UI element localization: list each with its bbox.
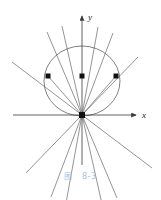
left-point-marker bbox=[46, 74, 51, 79]
chord-left bbox=[48, 76, 82, 115]
figure-caption-number: 8-3 bbox=[82, 172, 97, 181]
figure-caption-label: 图 bbox=[64, 172, 73, 181]
chord-right bbox=[82, 76, 116, 115]
right-point-marker bbox=[114, 74, 119, 79]
y-axis-label: y bbox=[87, 12, 92, 22]
origin-point-marker bbox=[79, 112, 85, 118]
top-point-marker bbox=[80, 74, 85, 79]
figure-caption: 图8-3 bbox=[0, 170, 161, 181]
figure-container: y x 图8-3 bbox=[0, 0, 161, 200]
x-axis-label: x bbox=[141, 110, 146, 120]
